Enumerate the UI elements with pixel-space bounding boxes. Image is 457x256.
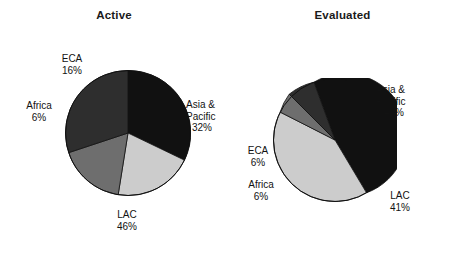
pie-label-lac-evaluated-pct: 41% — [378, 202, 422, 214]
pie-label-lac-evaluated-name: LAC — [390, 190, 409, 201]
pie-label-eca-evaluated: ECA 6% — [236, 145, 280, 168]
pie-label-africa-evaluated-name: Africa — [248, 179, 274, 190]
pie-chart-figure: Active ECA 16% Africa 6% LA — [0, 0, 457, 256]
pie-label-eca-active-pct: 16% — [49, 65, 95, 77]
pie-label-africa-active-name: Africa — [26, 100, 52, 111]
pie-label-eca-evaluated-name: ECA — [248, 145, 269, 156]
pie-label-lac-evaluated: LAC 41% — [378, 190, 422, 213]
panel-title-evaluated: Evaluated — [228, 9, 457, 21]
pie-label-lac-active: LAC 46% — [104, 209, 150, 232]
pie-label-africa-evaluated-pct: 6% — [234, 191, 288, 203]
pie-chart-active — [65, 70, 191, 196]
pie-label-eca-evaluated-pct: 6% — [236, 157, 280, 169]
pie-label-asia-pacific-evaluated-name2: Pacific — [376, 96, 436, 108]
pie-label-asia-pacific-evaluated: Asia & Pacific 47% — [376, 84, 436, 119]
chart-panel-active: Active ECA 16% Africa 6% LA — [0, 0, 228, 256]
chart-panel-evaluated: Evaluated Asia & Pacific 47% ECA 6% — [228, 0, 457, 256]
pie-label-lac-active-name: LAC — [117, 209, 136, 220]
pie-label-asia-pacific-active-name: Asia & — [186, 99, 215, 110]
panel-title-active: Active — [0, 9, 228, 21]
pie-label-africa-evaluated: Africa 6% — [234, 179, 288, 202]
pie-label-africa-active-pct: 6% — [12, 112, 66, 124]
pie-label-asia-pacific-evaluated-pct: 47% — [376, 107, 436, 119]
pie-label-eca-active-name: ECA — [62, 53, 83, 64]
pie-label-africa-active: Africa 6% — [12, 100, 66, 123]
pie-label-lac-active-pct: 46% — [104, 221, 150, 233]
pie-svg-active — [65, 70, 191, 196]
pie-label-asia-pacific-evaluated-name: Asia & — [376, 84, 405, 95]
pie-label-eca-active: ECA 16% — [49, 53, 95, 76]
